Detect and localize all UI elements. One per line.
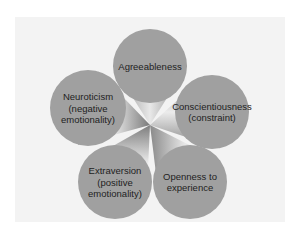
big-five-diagram: AgreeablenessConscientiousness(constrain…	[0, 0, 298, 232]
trait-node-conscientiousness: Conscientiousness(constraint)	[172, 75, 252, 149]
trait-node-openness: Openness toexperience	[153, 145, 227, 219]
trait-label: emotionality)	[61, 114, 115, 125]
trait-label: Openness to	[163, 171, 217, 182]
trait-label: (constraint)	[188, 112, 236, 123]
trait-label: experience	[167, 182, 213, 193]
trait-label: Agreeableness	[118, 61, 182, 72]
trait-node-neuroticism: Neuroticism(negativeemotionality)	[50, 70, 126, 146]
trait-label: emotionality)	[88, 188, 142, 199]
trait-node-agreeableness: Agreeableness	[113, 29, 187, 103]
trait-label: Extraversion	[89, 165, 142, 176]
trait-nodes: AgreeablenessConscientiousness(constrain…	[50, 29, 252, 219]
trait-label: (positive	[97, 177, 132, 188]
trait-node-extraversion: Extraversion(positiveemotionality)	[78, 145, 152, 219]
trait-label: Neuroticism	[63, 91, 113, 102]
trait-label: Conscientiousness	[172, 101, 252, 112]
trait-label: (negative	[68, 103, 107, 114]
